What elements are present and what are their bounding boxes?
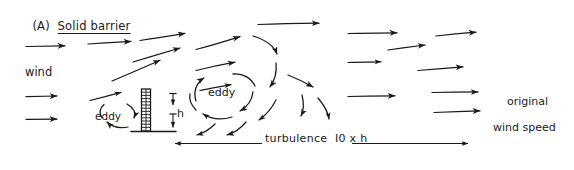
recovery-flow-arrows [348, 32, 480, 112]
figure-panel: (A) Solid barrier wind eddy eddy h turbu… [0, 0, 574, 170]
original-wind-speed-line2: wind speed [493, 122, 556, 135]
overtop-free-stream-arrows [258, 23, 397, 33]
turbulence-extent-label: turbulence I0 x h [265, 133, 367, 146]
wind-label: wind [25, 66, 52, 80]
eddy-large-label: eddy [208, 87, 235, 100]
eddy-small-label: eddy [95, 110, 121, 122]
barrier-height-label: h [177, 108, 184, 121]
original-wind-speed-line1: original [507, 95, 548, 108]
panel-title-text: Solid barrier [58, 19, 131, 33]
upwind-laminar-arrows [26, 46, 65, 120]
panel-id: (A) [32, 19, 49, 33]
barrier [131, 89, 176, 132]
original-wind-speed-label: original wind speed [493, 83, 556, 161]
panel-title: (A) Solid barrier [17, 6, 131, 47]
